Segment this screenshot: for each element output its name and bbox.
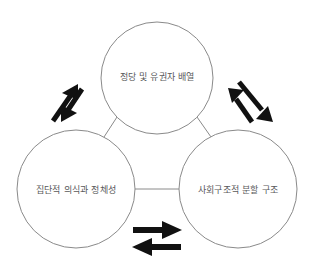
arrow-bottom-rightward-head: [162, 221, 182, 239]
arrow-bottom-rightward-icon: [133, 221, 182, 239]
arrow-right-upward-shaft: [236, 99, 252, 122]
node-label-party-voter-alignment: 정당 및 유권자 배열: [120, 72, 195, 83]
arrows-right: [228, 82, 273, 122]
connector-top-right: [197, 117, 211, 137]
arrows-left: [53, 84, 82, 122]
arrow-bottom-leftward-icon: [132, 238, 181, 256]
node-label-collective-consciousness-identity: 집단적 의식과 정체성: [36, 185, 116, 196]
diagram-svg: [0, 0, 314, 275]
arrow-bottom-leftward-head: [132, 238, 152, 256]
arrow-right-downward-icon: [239, 82, 273, 122]
arrows-bottom: [132, 221, 182, 256]
diagram-canvas: 정당 및 유권자 배열 집단적 의식과 정체성 사회구조적 분할 구조: [0, 0, 314, 275]
connector-top-left: [104, 117, 117, 137]
node-label-social-structural-cleavage: 사회구조적 분할 구조: [198, 185, 278, 196]
